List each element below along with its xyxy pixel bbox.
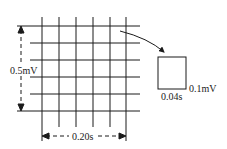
cell-width-label: 0.04s <box>161 91 183 102</box>
enlarged-cell <box>158 57 186 89</box>
cell-height-label: 0.1mV <box>189 83 217 94</box>
callout-arrow-icon <box>120 31 164 52</box>
horizontal-span-label: 0.20s <box>72 131 94 142</box>
arrow-down-icon <box>18 104 24 111</box>
arrow-left-icon <box>42 133 49 139</box>
arrow-right-icon <box>119 133 126 139</box>
ecg-grid-diagram: 0.5mV 0.20s 0.1mV 0.04s <box>0 0 227 149</box>
arrow-up-icon <box>18 26 24 33</box>
vertical-grid-lines <box>42 17 126 141</box>
vertical-span-label: 0.5mV <box>10 65 38 76</box>
